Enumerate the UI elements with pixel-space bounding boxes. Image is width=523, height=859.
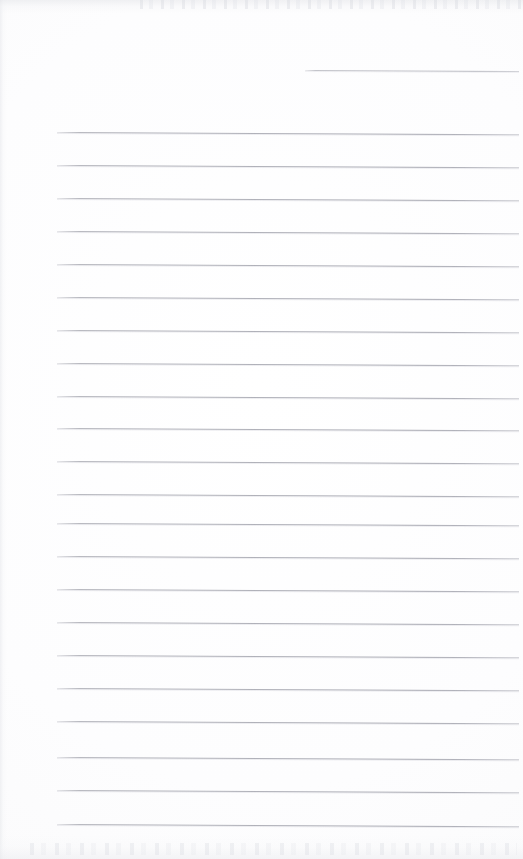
rule-line (57, 757, 519, 760)
rule-line (57, 198, 519, 201)
scanned-page (0, 0, 523, 859)
rule-line (57, 721, 519, 724)
rule-line (57, 622, 519, 625)
rule-line (57, 688, 519, 691)
rule-line-partial (305, 70, 519, 72)
rule-line (57, 330, 519, 333)
rule-line (57, 655, 519, 658)
rule-line (57, 363, 519, 366)
rule-line (57, 589, 519, 592)
rule-line (57, 556, 519, 559)
rule-line (57, 231, 519, 234)
rule-line (57, 297, 519, 300)
rule-line (57, 494, 519, 497)
rule-line (57, 132, 519, 135)
rule-line (57, 824, 519, 827)
rule-line (57, 428, 519, 431)
rule-line (57, 165, 519, 168)
ruled-lines-layer (0, 0, 523, 859)
rule-line (57, 264, 519, 267)
rule-line (57, 461, 519, 464)
rule-line (57, 790, 519, 793)
rule-line (57, 396, 519, 399)
rule-line (57, 523, 519, 526)
